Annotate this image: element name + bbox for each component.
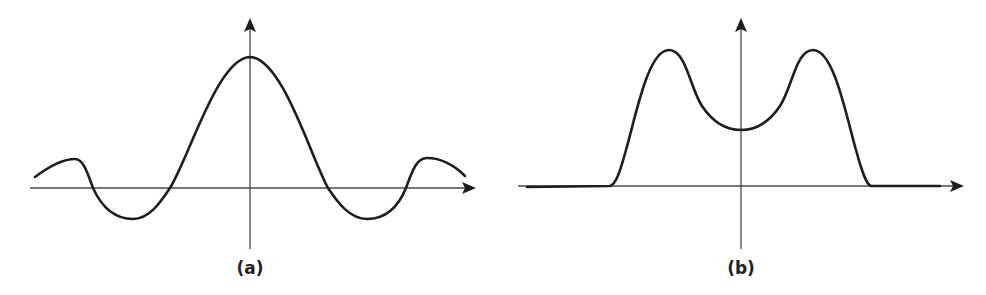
figure-canvas [0,0,986,295]
panel-a [30,18,476,249]
panel-b-label: (b) [711,258,771,278]
panel-a-label: (a) [220,258,280,278]
panel-b [518,18,964,249]
panel-b-curve [527,50,940,187]
